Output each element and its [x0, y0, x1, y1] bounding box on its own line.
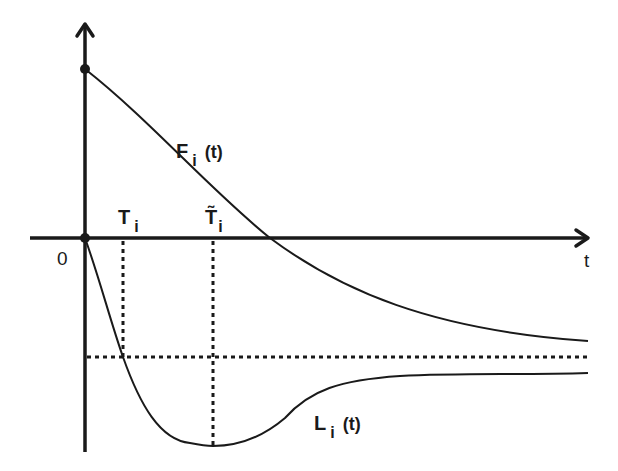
l-curve-label: Li(t) — [314, 413, 361, 433]
l-curve-label-sub: i — [330, 424, 334, 441]
t-tilde-marker-label-main: T̃ — [205, 206, 217, 228]
t-marker-label: Ti — [118, 207, 139, 227]
t-tilde-marker-label-sub: i — [218, 218, 222, 235]
t-marker-label-main: T — [118, 206, 130, 228]
t-axis — [30, 230, 588, 246]
origin-label: 0 — [57, 249, 68, 268]
f-curve-label-arg: (t) — [205, 142, 223, 162]
f-curve-label: Fi(t) — [176, 141, 223, 161]
f-curve — [85, 69, 588, 341]
l-curve-label-main: L — [314, 412, 326, 434]
t-axis-label: t — [584, 251, 589, 270]
t-tilde-marker-label: T̃i — [205, 207, 223, 227]
f-curve-label-main: F — [176, 140, 188, 162]
f-start-point — [80, 64, 90, 74]
t-marker-label-sub: i — [134, 218, 138, 235]
l-curve-label-arg: (t) — [343, 414, 361, 434]
diagram-canvas — [0, 0, 618, 471]
f-curve-label-sub: i — [192, 152, 196, 169]
origin-point — [80, 233, 90, 243]
